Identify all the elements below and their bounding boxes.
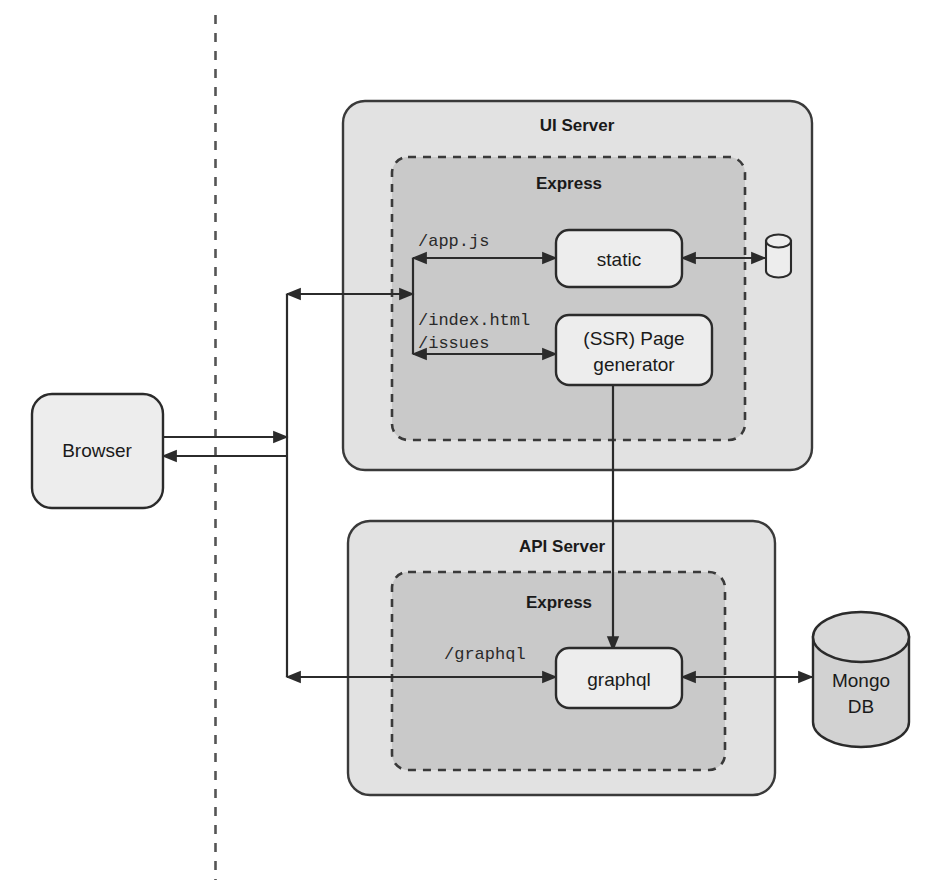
ssr-page-generator-label-line1: (SSR) Page xyxy=(583,328,684,349)
route-label-graphql: /graphql xyxy=(444,645,526,664)
route-label-index-html: /index.html xyxy=(418,311,530,330)
architecture-diagram: UI Server Express API Server Express Bro… xyxy=(0,0,949,894)
mongo-db-label-line2: DB xyxy=(848,696,874,717)
node-file-store[interactable] xyxy=(766,235,791,278)
api-server-label: API Server xyxy=(519,537,605,556)
route-label-issues: /issues xyxy=(418,334,489,353)
graphql-label: graphql xyxy=(587,669,650,690)
ui-express-label: Express xyxy=(536,174,602,193)
ui-server-label: UI Server xyxy=(540,116,615,135)
api-express-label: Express xyxy=(526,593,592,612)
mongo-db-label-line1: Mongo xyxy=(832,670,890,691)
diagram-canvas: UI Server Express API Server Express Bro… xyxy=(0,0,949,894)
ui-express-container xyxy=(392,157,745,440)
ssr-page-generator-label-line2: generator xyxy=(593,354,675,375)
route-label-app-js: /app.js xyxy=(418,232,489,251)
static-label: static xyxy=(597,249,641,270)
browser-label: Browser xyxy=(62,440,132,461)
